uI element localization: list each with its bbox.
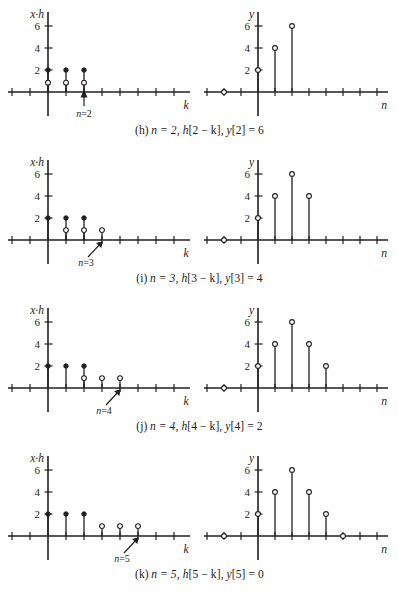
open-marker <box>290 320 295 325</box>
convolution-figure: 246x·hkn=2246yn(h) n = 2, h[2 − k], y[2]… <box>0 0 399 593</box>
y-axis-tick-label: 2 <box>35 64 41 76</box>
caption-n-expression: n = 4, <box>150 420 179 432</box>
x-axis-label: n <box>381 99 387 111</box>
x-axis-label: k <box>183 395 189 407</box>
shift-marker-annotation: n=4 <box>96 390 120 416</box>
zero-marker <box>222 90 227 95</box>
filled-marker <box>64 216 69 221</box>
x-axis-label: k <box>183 247 189 259</box>
panel-h-caption: (h) n = 2, h[2 − k], y[2] = 6 <box>0 124 399 136</box>
y-axis-tick-label: 6 <box>35 464 41 476</box>
zero-marker <box>222 386 227 391</box>
panel-j-right-plot: 246yn <box>200 296 399 416</box>
panel-h: 246x·hkn=2246yn(h) n = 2, h[2 − k], y[2]… <box>0 0 399 148</box>
filled-marker <box>64 512 69 517</box>
open-marker <box>273 490 278 495</box>
open-marker <box>273 194 278 199</box>
panel-j: 246x·hkn=4246yn(j) n = 4, h[4 − k], y[4]… <box>0 296 399 444</box>
open-marker <box>324 512 329 517</box>
shift-marker-annotation: n=2 <box>76 91 92 119</box>
open-marker <box>307 194 312 199</box>
panel-j-caption: (j) n = 4, h[4 − k], y[4] = 2 <box>0 420 399 432</box>
open-marker <box>290 172 295 177</box>
open-marker <box>100 524 105 529</box>
y-axis-tick-label: 4 <box>35 338 41 350</box>
caption-n-expression: n = 5, <box>151 568 180 580</box>
y-axis-tick-label: 4 <box>35 486 41 498</box>
zero-marker <box>341 534 346 539</box>
y-axis-tick-label: 6 <box>35 20 41 32</box>
y-axis-tick-label: 6 <box>245 316 251 328</box>
open-marker <box>82 80 87 85</box>
panel-j-left-plot: 246x·hkn=4 <box>0 296 200 416</box>
filled-marker <box>82 68 87 73</box>
y-axis-label: y <box>248 304 255 317</box>
y-axis-tick-label: 6 <box>245 20 251 32</box>
y-axis-tick-label: 2 <box>35 360 41 372</box>
panel-i: 246x·hkn=3246yn(i) n = 3, h[3 − k], y[3]… <box>0 148 399 296</box>
caption-h-expression: h[2 − k], <box>183 124 224 136</box>
open-marker <box>273 46 278 51</box>
open-marker <box>64 228 69 233</box>
panel-k-caption: (k) n = 5, h[5 − k], y[5] = 0 <box>0 568 399 580</box>
shift-marker-annotation: n=3 <box>78 242 102 268</box>
caption-y-expression: y[3] = 4 <box>225 272 262 284</box>
open-marker <box>307 490 312 495</box>
caption-letter: (k) <box>135 568 149 580</box>
y-axis-tick-label: 4 <box>35 42 41 54</box>
filled-marker <box>82 216 87 221</box>
open-marker <box>82 376 87 381</box>
open-marker <box>82 228 87 233</box>
filled-marker <box>46 512 51 517</box>
y-axis-label: x·h <box>29 8 44 20</box>
filled-marker <box>46 68 51 73</box>
y-axis-tick-label: 2 <box>245 508 251 520</box>
shift-marker-label: n=5 <box>114 553 130 564</box>
x-axis-label: n <box>381 247 387 259</box>
x-axis-label: n <box>381 543 387 555</box>
panel-i-right-plot: 246yn <box>200 148 399 268</box>
shift-marker-label: n=3 <box>78 257 94 268</box>
zero-marker <box>222 238 227 243</box>
y-axis-tick-label: 2 <box>245 64 251 76</box>
y-axis-label: x·h <box>29 452 44 464</box>
caption-n-expression: n = 2, <box>151 124 180 136</box>
y-axis-tick-label: 6 <box>35 316 41 328</box>
open-marker <box>307 342 312 347</box>
caption-n-expression: n = 3, <box>150 272 179 284</box>
filled-marker <box>46 216 51 221</box>
y-axis-tick-label: 6 <box>35 168 41 180</box>
x-axis-label: k <box>183 543 189 555</box>
panel-i-caption: (i) n = 3, h[3 − k], y[3] = 4 <box>0 272 399 284</box>
panel-h-left-plot: 246x·hkn=2 <box>0 0 200 120</box>
open-marker <box>273 342 278 347</box>
caption-letter: (i) <box>136 272 147 284</box>
y-axis-tick-label: 4 <box>35 190 41 202</box>
y-axis-label: y <box>248 8 255 21</box>
y-axis-tick-label: 2 <box>245 360 251 372</box>
open-marker <box>290 24 295 29</box>
open-marker <box>290 468 295 473</box>
filled-marker <box>82 512 87 517</box>
y-axis-tick-label: 4 <box>245 338 251 350</box>
y-axis-tick-label: 4 <box>245 42 251 54</box>
y-axis-label: x·h <box>29 156 44 168</box>
panel-k-left-plot: 246x·hkn=5 <box>0 444 200 564</box>
caption-letter: (h) <box>135 124 149 136</box>
y-axis-tick-label: 4 <box>245 190 251 202</box>
shift-marker-annotation: n=5 <box>114 538 138 564</box>
open-marker <box>256 68 261 73</box>
caption-h-expression: h[3 − k], <box>181 272 222 284</box>
caption-y-expression: y[4] = 2 <box>225 420 262 432</box>
open-marker <box>256 216 261 221</box>
y-axis-label: y <box>248 156 255 169</box>
caption-y-expression: y[2] = 6 <box>227 124 264 136</box>
x-axis-label: k <box>183 99 189 111</box>
x-axis-label: n <box>381 395 387 407</box>
caption-h-expression: h[4 − k], <box>181 420 222 432</box>
y-axis-label: y <box>248 452 255 465</box>
zero-marker <box>222 534 227 539</box>
y-axis-tick-label: 6 <box>245 168 251 180</box>
panel-i-left-plot: 246x·hkn=3 <box>0 148 200 268</box>
caption-letter: (j) <box>136 420 147 432</box>
